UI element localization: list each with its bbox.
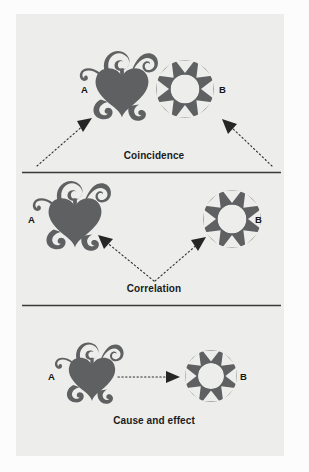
- diagram-page: Coincidence Correlation Cause and effect…: [0, 0, 309, 472]
- node-b-star-wheel-icon: [156, 60, 214, 118]
- node-b-star-wheel-icon: [185, 350, 237, 402]
- node-b-star-wheel-icon: [203, 190, 261, 248]
- arrow-to-a: [37, 118, 92, 166]
- node-letter-b-cause-and-effect: B: [240, 371, 247, 382]
- node-a-heart-swirl-icon: [55, 342, 124, 403]
- node-letter-b-coincidence: B: [219, 84, 226, 95]
- section-label-cause-and-effect: Cause and effect: [113, 415, 195, 426]
- arrow-to-b: [222, 119, 272, 166]
- section-correlation-graphics: [33, 181, 261, 281]
- arrow-a-to-b: [118, 371, 180, 383]
- node-letter-a-correlation: A: [28, 214, 35, 225]
- node-a-heart-swirl-icon: [80, 51, 158, 121]
- section-cause-and-effect-graphics: [55, 342, 237, 403]
- arrow-to-b: [155, 237, 206, 281]
- arrow-to-a: [98, 235, 154, 281]
- node-letter-b-correlation: B: [255, 214, 262, 225]
- diagram-canvas: [0, 0, 309, 472]
- section-label-correlation: Correlation: [127, 283, 181, 294]
- node-a-heart-swirl-icon: [33, 181, 111, 251]
- node-letter-a-coincidence: A: [81, 84, 88, 95]
- section-coincidence-graphics: [37, 51, 272, 166]
- section-label-coincidence: Coincidence: [124, 150, 185, 161]
- node-letter-a-cause-and-effect: A: [48, 371, 55, 382]
